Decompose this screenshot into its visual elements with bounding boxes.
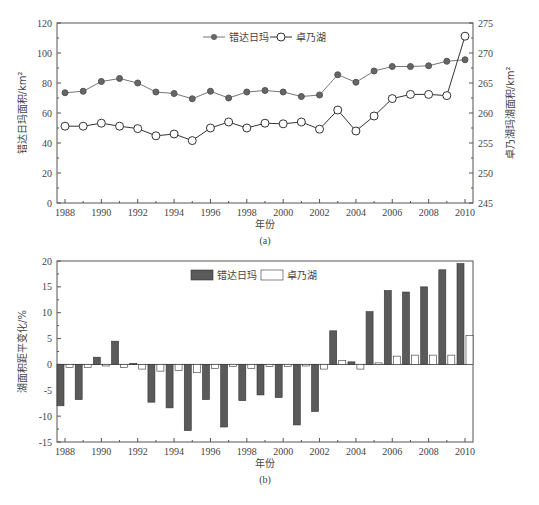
bar-series-0 xyxy=(166,364,173,407)
data-point xyxy=(353,79,359,85)
data-point xyxy=(335,72,341,78)
data-point xyxy=(226,95,232,101)
legend-label-1: 卓乃湖 xyxy=(287,270,317,281)
bar-series-0 xyxy=(293,364,300,425)
bar-series-1 xyxy=(411,355,418,364)
legend: 错达日玛卓乃湖 xyxy=(191,269,317,281)
y-right-tick-label: 265 xyxy=(478,78,493,89)
data-point xyxy=(444,58,450,64)
y-right-axis-title: 卓乃湖玛湖面积/km² xyxy=(505,67,516,160)
y-right-tick-label: 250 xyxy=(478,168,493,179)
caption-a: (a) xyxy=(259,235,270,247)
caption-b: (b) xyxy=(259,474,271,486)
legend-label-0: 错达日玛 xyxy=(217,269,257,281)
bar-series-1 xyxy=(175,364,182,370)
data-point xyxy=(262,88,268,94)
bar-series-1 xyxy=(430,355,437,364)
x-tick-label: 1994 xyxy=(164,207,184,218)
bar-series-1 xyxy=(157,364,164,371)
bar-series-0 xyxy=(439,270,446,365)
data-point xyxy=(425,90,433,98)
data-point xyxy=(152,132,160,140)
x-tick-label: 1996 xyxy=(200,207,220,218)
y-right-tick-label: 245 xyxy=(478,198,493,209)
bar-series-0 xyxy=(112,341,119,364)
legend-label-0: 错达日玛 xyxy=(229,31,269,43)
data-point xyxy=(116,122,124,130)
bar-series-0 xyxy=(184,364,191,430)
data-point xyxy=(297,118,305,126)
data-point xyxy=(206,124,214,132)
legend-marker-open-circle-icon xyxy=(277,33,285,41)
y-axis-title: 湖面积距平变化/% xyxy=(16,310,28,393)
y-tick-label: -10 xyxy=(39,411,52,422)
x-tick-label: 1990 xyxy=(91,446,111,457)
y-axis-title: 错达日玛面积/km² xyxy=(16,72,28,155)
data-point xyxy=(153,89,159,95)
bar-series-1 xyxy=(448,355,455,364)
bar-series-1 xyxy=(357,364,364,369)
data-point xyxy=(98,79,104,85)
y-tick-label: 40 xyxy=(42,138,52,149)
legend-swatch-filled-icon xyxy=(191,270,213,280)
y-tick-label: 120 xyxy=(37,18,52,29)
y-right-tick-label: 275 xyxy=(478,18,493,29)
y-tick-label: 20 xyxy=(42,256,52,267)
data-point xyxy=(243,124,251,132)
bar-series-0 xyxy=(130,363,137,364)
x-tick-label: 2006 xyxy=(382,446,402,457)
legend-label-1: 卓乃湖 xyxy=(296,32,326,43)
bar-series-0 xyxy=(202,364,209,399)
bar-series-1 xyxy=(284,364,291,366)
data-point xyxy=(388,95,396,103)
data-point xyxy=(298,94,304,100)
plot-frame xyxy=(57,23,473,203)
bar-series-0 xyxy=(93,357,100,364)
bar-series-0 xyxy=(402,292,409,364)
x-axis-title: 年份 xyxy=(255,457,275,469)
bar-series-1 xyxy=(84,364,91,367)
bar-series-0 xyxy=(148,364,155,402)
bar-series-1 xyxy=(266,364,273,366)
y-right-tick-label: 270 xyxy=(478,48,493,59)
bar-series-0 xyxy=(57,364,64,405)
x-tick-label: 2010 xyxy=(455,446,475,457)
bar-series-0 xyxy=(257,364,264,395)
bar-series-1 xyxy=(230,364,237,366)
y-tick-label: 5 xyxy=(47,333,52,344)
bar-series-0 xyxy=(312,364,319,411)
data-point xyxy=(188,137,196,145)
data-point xyxy=(443,92,451,100)
bar-series-1 xyxy=(466,335,473,364)
y-tick-label: 0 xyxy=(47,198,52,209)
x-tick-label: 1998 xyxy=(237,207,257,218)
data-point xyxy=(426,63,432,69)
x-tick-label: 2000 xyxy=(273,207,293,218)
legend-marker-filled-circle-icon xyxy=(211,34,217,40)
bar-series-0 xyxy=(330,331,337,365)
x-tick-label: 2004 xyxy=(346,207,366,218)
x-tick-label: 2008 xyxy=(419,446,439,457)
bar-series-1 xyxy=(248,364,255,368)
bar-series-0 xyxy=(221,364,228,427)
chart-b-anomaly-bar: -15-10-505101520198819901992199419961998… xyxy=(16,256,475,487)
data-point xyxy=(117,76,123,82)
x-tick-label: 1988 xyxy=(55,446,75,457)
y-right-tick-label: 260 xyxy=(478,108,493,119)
bar-series-1 xyxy=(102,364,109,366)
data-point xyxy=(279,120,287,128)
bar-series-0 xyxy=(366,312,373,365)
data-point xyxy=(261,119,269,127)
x-tick-label: 2008 xyxy=(419,207,439,218)
y-right-tick-label: 255 xyxy=(478,138,493,149)
data-point xyxy=(280,89,286,95)
legend-swatch-open-icon xyxy=(261,270,283,280)
data-point xyxy=(62,90,68,96)
chart-a-area-line: 0204060801001202452502552602652702751988… xyxy=(16,18,516,248)
data-point xyxy=(461,32,469,40)
figure: 0204060801001202452502552602652702751988… xyxy=(0,0,539,505)
data-point xyxy=(316,125,324,133)
plot-frame xyxy=(57,261,473,442)
y-tick-label: 0 xyxy=(47,359,52,370)
data-point xyxy=(371,68,377,74)
